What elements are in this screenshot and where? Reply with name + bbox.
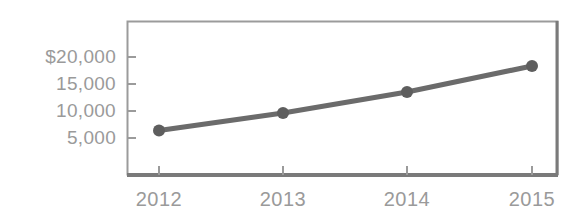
- data-point-2012: [153, 125, 165, 137]
- y-tick-label-15000: 15,000: [18, 73, 116, 95]
- data-point-2013: [277, 107, 289, 119]
- x-tick-label-2014: 2014: [384, 188, 431, 211]
- x-tick-label-2012: 2012: [136, 188, 183, 211]
- x-tick-label-2013: 2013: [260, 188, 307, 211]
- y-tick-label-10000: 10,000: [18, 100, 116, 122]
- y-tick-label-20000: $20,000: [18, 46, 116, 68]
- data-point-2014: [401, 86, 413, 98]
- line-chart: $20,000 15,000 10,000 5,000 2012 2013 20…: [0, 0, 573, 223]
- data-line-series-1: [159, 66, 532, 131]
- y-tick-label-5000: 5,000: [18, 127, 116, 149]
- x-tick-label-2015: 2015: [509, 188, 556, 211]
- data-point-2015: [526, 60, 538, 72]
- plot-frame: [128, 22, 558, 175]
